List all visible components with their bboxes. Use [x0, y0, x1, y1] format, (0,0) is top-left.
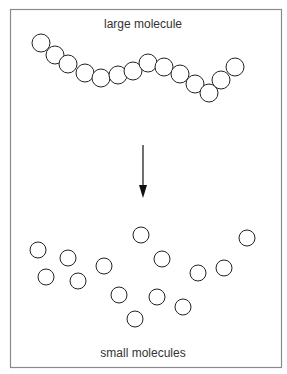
small-molecule-circle: [30, 242, 46, 258]
small-molecule-circle: [149, 289, 165, 305]
small-molecule-circle: [38, 269, 54, 285]
small-molecule-circle: [216, 260, 232, 276]
chain-unit-circle: [212, 71, 230, 89]
small-molecule-circle: [60, 250, 76, 266]
chain-unit-circle: [76, 64, 94, 82]
small-molecule-circle: [190, 265, 206, 281]
large-molecule-label: large molecule: [104, 17, 182, 31]
molecule-diagram: large molecule small molecules: [0, 0, 287, 374]
large-molecule-chain: [32, 34, 244, 102]
small-molecule-circle: [127, 311, 143, 327]
small-molecule-circle: [239, 230, 255, 246]
small-molecule-circle: [111, 287, 127, 303]
small-molecule-circle: [154, 251, 170, 267]
small-molecule-circle: [133, 227, 149, 243]
arrow-down-icon: [139, 145, 147, 198]
small-molecules-label: small molecules: [100, 346, 185, 360]
chain-unit-circle: [32, 34, 50, 52]
chain-unit-circle: [59, 55, 77, 73]
chain-unit-circle: [92, 69, 110, 87]
chain-unit-circle: [155, 58, 173, 76]
chain-unit-circle: [226, 58, 244, 76]
small-molecule-circle: [96, 258, 112, 274]
small-molecules-group: [30, 227, 255, 327]
chain-unit-circle: [139, 54, 157, 72]
small-molecule-circle: [175, 299, 191, 315]
small-molecule-circle: [70, 273, 86, 289]
